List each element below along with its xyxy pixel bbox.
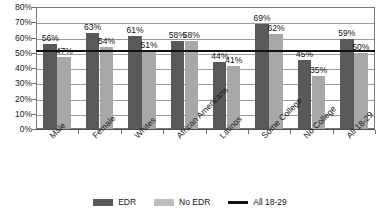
legend-label: No EDR	[179, 198, 210, 207]
x-axis-labels: MaleFemaleWhitesAfrican AmericansLatinos…	[0, 134, 380, 182]
y-axis: 80% 70% 60% 50% 40% 30% 20% 10% 0%	[0, 0, 32, 136]
legend-label: All 18-29	[253, 198, 287, 207]
y-tick-label: 40%	[0, 64, 32, 73]
y-tick-label: 20%	[0, 94, 32, 103]
bar-value-label: 35%	[310, 66, 327, 75]
bar-value-label: 45%	[296, 50, 313, 59]
y-tick-label: 50%	[0, 49, 32, 58]
legend-item-no-edr: No EDR	[154, 198, 210, 207]
legend-swatch-bar-icon	[93, 199, 113, 206]
bar-value-label: 54%	[98, 37, 115, 46]
bar-value-label: 59%	[338, 29, 355, 38]
y-tick-label: 30%	[0, 79, 32, 88]
bar-value-label: 51%	[140, 41, 157, 50]
legend-item-all-18-29: All 18-29	[228, 198, 287, 207]
y-tick-label: 10%	[0, 110, 32, 119]
turnout-bar-chart: 80% 70% 60% 50% 40% 30% 20% 10% 0% 56%47…	[0, 0, 380, 219]
bar-value-label: 63%	[84, 23, 101, 32]
bar-value-label: 56%	[42, 34, 59, 43]
y-tick-label: 70%	[0, 18, 32, 27]
bar-value-label: 58%	[183, 31, 200, 40]
legend-swatch-line-icon	[228, 201, 248, 204]
bar-value-label: 41%	[225, 56, 242, 65]
bar-value-label: 62%	[268, 24, 285, 33]
bar-value-label: 50%	[352, 43, 369, 52]
bar-value-label: 47%	[56, 47, 73, 56]
y-tick-label: 60%	[0, 33, 32, 42]
bar-value-label: 61%	[126, 26, 143, 35]
legend-item-edr: EDR	[93, 198, 136, 207]
chart-legend: EDR No EDR All 18-29	[0, 198, 380, 207]
y-tick-label: 0%	[0, 125, 32, 134]
legend-label: EDR	[118, 198, 136, 207]
y-tick-label: 80%	[0, 3, 32, 12]
bar-value-label: 69%	[254, 14, 271, 23]
legend-swatch-bar-icon	[154, 199, 174, 206]
